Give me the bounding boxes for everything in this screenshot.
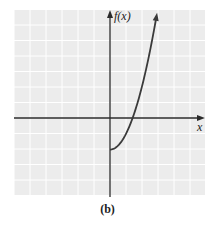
y-axis-label: f(x) bbox=[114, 9, 131, 23]
figure-caption: (b) bbox=[0, 202, 215, 217]
function-graph: f(x) x bbox=[0, 0, 215, 234]
x-axis-label: x bbox=[196, 120, 203, 134]
